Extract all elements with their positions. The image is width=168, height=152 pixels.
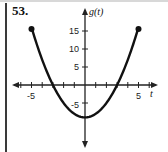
y-axis-label: g(t) (89, 6, 104, 18)
y-tick-label-neg5: -5 (71, 100, 79, 110)
graph: g(t) t -5 5 15 10 5 -5 (0, 0, 168, 152)
closed-dot-icon (29, 26, 35, 32)
closed-dot-icon (136, 26, 142, 32)
y-tick-label-15: 15 (69, 26, 79, 36)
x-axis-label: t (150, 88, 153, 99)
y-axis (82, 8, 88, 148)
y-tick-label-10: 10 (69, 44, 79, 54)
x-axis-left-arrow-icon (12, 82, 19, 88)
x-tick-label-neg5: -5 (27, 91, 35, 101)
y-tick-label-5: 5 (74, 62, 79, 72)
y-axis-up-arrow-icon (82, 8, 88, 15)
x-tick-label-5: 5 (136, 91, 141, 101)
y-axis-down-arrow-icon (82, 141, 88, 148)
